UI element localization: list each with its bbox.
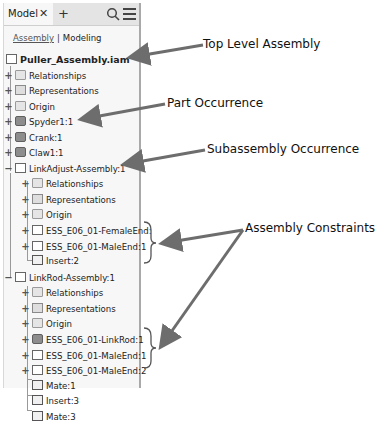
callout-assembly-constraints: Assembly Constraints [245,221,375,235]
callout-top-level-assembly: Top Level Assembly [203,37,320,51]
callout-part-occurrence: Part Occurrence [167,96,263,110]
callout-subassembly-occurrence: Subassembly Occurrence [207,142,359,156]
